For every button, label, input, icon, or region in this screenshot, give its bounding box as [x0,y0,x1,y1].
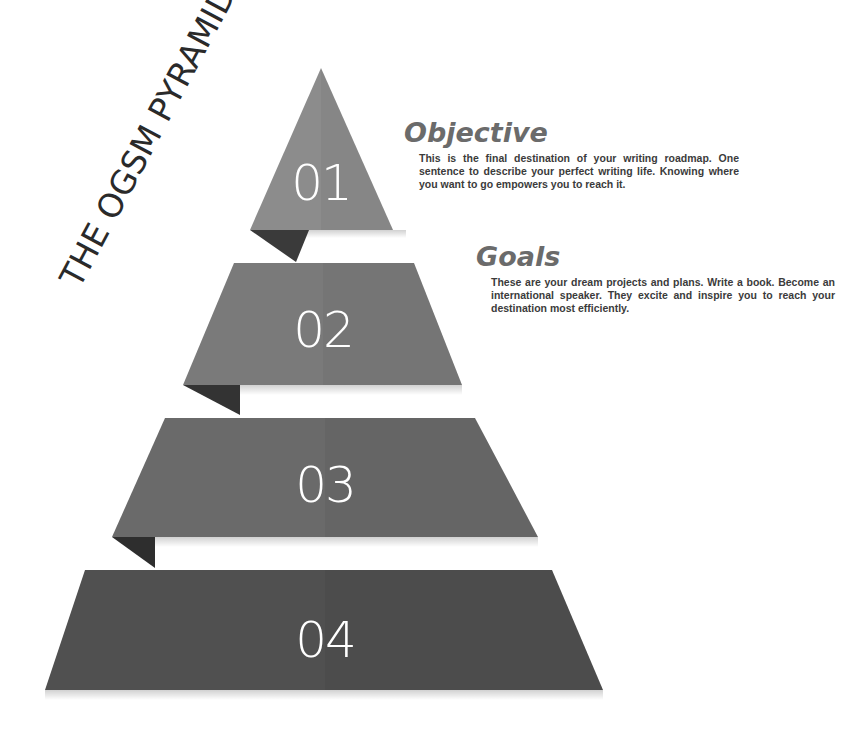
pyramid-tier-1: 01 [250,68,406,262]
pyramid-tier-3: 03 [112,418,538,568]
goals-heading: Goals [476,242,836,272]
tier-3-number: 03 [295,456,355,514]
tier-4-shade [325,570,603,690]
tier-2-shadow [240,385,462,395]
pyramid-tier-4: 04 [45,570,603,700]
tier-3-shade [325,418,538,537]
tier-1-shadow [296,230,406,238]
pyramid-tier-2: 02 [183,263,462,415]
tier-3-shadow [155,537,538,547]
tier-1-fold [250,230,309,262]
tier-2-fold [183,385,240,415]
objective-description: Objective This is the final destination … [404,118,734,191]
tier-3-fold [112,537,155,568]
goals-text: These are your dream projects and plans.… [491,276,835,315]
tier-4-shadow [45,690,603,700]
goals-description: Goals These are your dream projects and … [476,242,836,315]
tier-1-number: 01 [291,154,351,212]
tier-4-number: 04 [295,611,355,669]
objective-heading: Objective [404,118,734,148]
ogsm-pyramid: 01 02 03 04 [0,0,866,735]
tier-2-number: 02 [293,301,353,359]
objective-text: This is the final destination of your wr… [419,152,739,191]
